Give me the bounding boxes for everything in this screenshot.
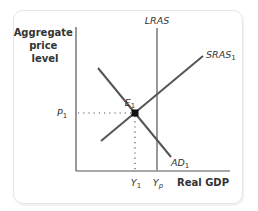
y-axis-label: Aggregate price level xyxy=(14,27,77,64)
sras-label: SRAS1 xyxy=(206,49,236,62)
output-y1-label: Y1 xyxy=(131,177,141,190)
price-level-label: P1 xyxy=(57,107,67,120)
equilibrium-label: E1 xyxy=(125,97,135,110)
ad-as-diagram: Aggregate price level LRAS SRAS1 AD1 E1 … xyxy=(0,0,258,211)
x-axis-label: Real GDP xyxy=(177,177,229,188)
lras-label: LRAS xyxy=(145,15,169,26)
ad-label: AD1 xyxy=(170,157,189,170)
sras-curve xyxy=(101,56,203,141)
equilibrium-point xyxy=(132,110,139,117)
output-potential-label: Yp xyxy=(153,177,164,190)
